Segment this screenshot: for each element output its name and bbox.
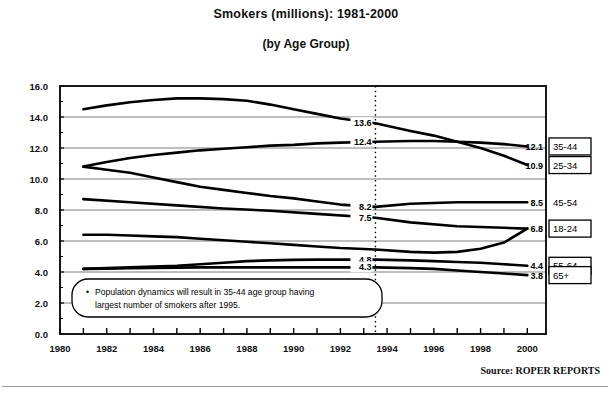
series-line-7.5-curve [83, 199, 527, 228]
x-tick-label: 1986 [190, 343, 211, 354]
x-tick-label: 1992 [330, 343, 351, 354]
x-tick-label: 1998 [470, 343, 491, 354]
x-tick-label: 1980 [49, 343, 70, 354]
end-value-label-65+: 3.8 [530, 271, 543, 281]
legend-label-35-44: 35-44 [553, 141, 577, 152]
x-tick-label: 2000 [517, 343, 538, 354]
value-label-25-34: 13.6 [354, 118, 372, 128]
value-label-45-54: 8.2 [359, 202, 372, 212]
page-bottom-rule [2, 386, 608, 387]
x-tick-label: 1996 [423, 343, 444, 354]
legend-label-25-34: 25-34 [553, 160, 577, 171]
annotation-line-2: largest number of smokers after 1995. [95, 300, 240, 310]
end-value-labels: 12.110.98.56.84.43.8 [525, 142, 543, 281]
y-tick-label: 16.0 [30, 81, 49, 92]
series-line-65+ [83, 267, 527, 275]
end-value-label-18-24: 6.8 [530, 224, 543, 234]
y-tick-label: 2.0 [35, 298, 48, 309]
source-label: Source: ROPER REPORTS [481, 365, 601, 376]
end-value-label-45-54: 8.5 [530, 198, 543, 208]
series-line-45-54 [83, 167, 527, 207]
end-value-label-25-34: 10.9 [525, 161, 543, 171]
legend-label-45-54: 45-54 [553, 197, 577, 208]
y-tick-label: 10.0 [30, 174, 49, 185]
value-label-65+: 4.3 [359, 262, 372, 272]
y-tick-label: 14.0 [30, 112, 49, 123]
x-tick-label: 1994 [377, 343, 399, 354]
y-tick-label: 12.0 [30, 143, 49, 154]
y-axis-tick-labels: 0.02.04.06.08.010.012.014.016.0 [30, 81, 65, 340]
series-line-35-44 [83, 141, 527, 167]
x-tick-label: 1984 [143, 343, 165, 354]
x-tick-label: 1990 [283, 343, 304, 354]
chart-page: Smokers (millions): 1981-2000 (by Age Gr… [0, 0, 612, 396]
value-label-35-44: 12.4 [354, 137, 372, 147]
legend-label-65+: 65+ [553, 270, 570, 281]
annotation-bullet-icon: • [86, 287, 89, 297]
line-chart: 0.02.04.06.08.010.012.014.016.0 19801982… [0, 0, 612, 396]
source-note: Source: ROPER REPORTS [481, 365, 601, 376]
annotation-callout: •Population dynamics will result in 35-4… [72, 279, 382, 317]
value-label-18-24: 7.5 [359, 213, 372, 223]
y-tick-label: 6.0 [35, 236, 48, 247]
y-tick-label: 8.0 [35, 205, 48, 216]
annotation-line-1: Population dynamics will result in 35-44… [95, 287, 314, 297]
legend-label-18-24: 18-24 [553, 223, 577, 234]
end-value-label-35-44: 12.1 [525, 142, 543, 152]
x-axis-tick-labels: 1980198219841986198819901992199419961998… [49, 328, 537, 354]
y-tick-label: 0.0 [35, 329, 48, 340]
legend: 35-4425-3445-5418-2455-6465+ [549, 138, 591, 284]
y-tick-label: 4.0 [35, 267, 48, 278]
x-tick-label: 1982 [96, 343, 117, 354]
annotation-box [72, 279, 382, 317]
x-tick-label: 1988 [236, 343, 257, 354]
series-lines [83, 98, 527, 275]
